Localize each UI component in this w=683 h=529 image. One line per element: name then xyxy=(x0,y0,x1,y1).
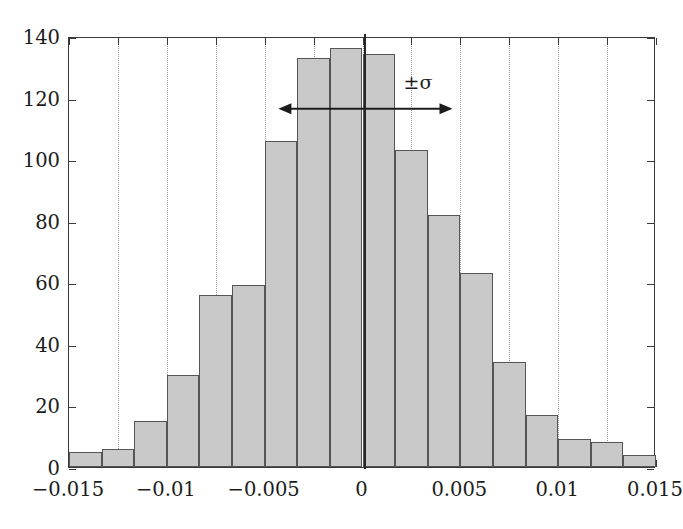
sigma-annotation-label: ±σ xyxy=(404,71,433,93)
x-tick-label: −0.015 xyxy=(32,478,104,501)
plot-area: ±σ xyxy=(68,37,655,468)
x-tick-label: 0.01 xyxy=(535,478,578,501)
y-tick-label: 40 xyxy=(35,333,60,356)
y-tick-label: 80 xyxy=(35,210,60,233)
y-tick-right xyxy=(647,469,654,470)
y-tick-label: 120 xyxy=(23,87,60,110)
y-tick-label: 0 xyxy=(48,457,60,480)
sigma-double-arrow xyxy=(69,38,656,469)
x-tick-bottom xyxy=(656,460,657,467)
x-tick-label: 0 xyxy=(355,478,367,501)
arrowhead-left-icon xyxy=(278,103,291,114)
y-tick-label: 100 xyxy=(23,149,60,172)
y-axis-labels: 020406080100120140 xyxy=(0,0,60,529)
x-tick-label: 0.005 xyxy=(431,478,487,501)
x-tick-label: −0.01 xyxy=(136,478,196,501)
mean-vertical-line xyxy=(364,34,366,469)
y-tick-label: 60 xyxy=(35,272,60,295)
x-axis-labels: −0.015−0.01−0.00500.0050.010.015 xyxy=(0,478,679,518)
y-tick-label: 140 xyxy=(23,26,60,49)
x-tick-label: 0.015 xyxy=(627,478,683,501)
arrowhead-right-icon xyxy=(440,103,453,114)
x-tick-top xyxy=(656,38,657,45)
y-tick-label: 20 xyxy=(35,395,60,418)
y-tick-left xyxy=(69,469,76,470)
x-tick-label: −0.005 xyxy=(228,478,300,501)
